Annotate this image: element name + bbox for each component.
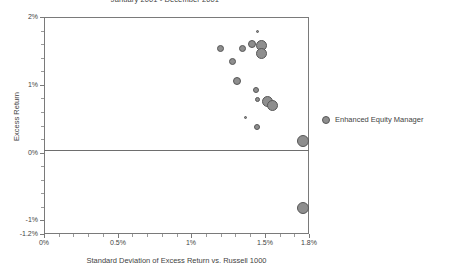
x-tick-minor xyxy=(162,234,163,237)
y-tick-minor xyxy=(41,98,44,99)
scatter-point[interactable] xyxy=(255,97,260,102)
x-tick-minor xyxy=(177,234,178,237)
scatter-point[interactable] xyxy=(217,45,224,52)
scatter-point[interactable] xyxy=(248,40,256,48)
x-tick-label: 1.5% xyxy=(245,239,285,246)
y-tick-label: 2% xyxy=(2,13,38,20)
y-tick-label: 1% xyxy=(2,81,38,88)
y-tick-minor xyxy=(41,139,44,140)
y-tick-minor xyxy=(41,112,44,113)
x-tick-mark xyxy=(118,234,119,238)
x-tick-minor xyxy=(73,234,74,237)
y-tick-minor xyxy=(41,71,44,72)
chart-legend: Enhanced Equity Manager xyxy=(322,115,423,124)
y-tick-minor xyxy=(41,31,44,32)
scatter-point[interactable] xyxy=(253,87,259,93)
x-tick-minor xyxy=(221,234,222,237)
scatter-point[interactable] xyxy=(239,45,246,52)
y-tick-minor xyxy=(41,207,44,208)
legend-marker-icon xyxy=(322,116,330,124)
chart-root: January 2001 - December 2001 Excess Retu… xyxy=(0,0,449,273)
x-tick-label: 1% xyxy=(171,239,211,246)
y-tick-label: 0% xyxy=(2,149,38,156)
x-tick-minor xyxy=(206,234,207,237)
x-tick-minor xyxy=(88,234,89,237)
x-tick-minor xyxy=(132,234,133,237)
x-tick-mark xyxy=(191,234,192,238)
y-tick-minor xyxy=(41,44,44,45)
y-tick-mark xyxy=(40,17,44,18)
y-tick-minor xyxy=(41,180,44,181)
y-tick-mark xyxy=(40,153,44,154)
x-tick-minor xyxy=(235,234,236,237)
y-tick-minor xyxy=(41,58,44,59)
y-tick-mark xyxy=(40,85,44,86)
x-tick-minor xyxy=(294,234,295,237)
plot-area xyxy=(44,17,309,234)
x-axis-label: Standard Deviation of Excess Return vs. … xyxy=(44,256,309,265)
x-tick-minor xyxy=(103,234,104,237)
y-tick-label: -1% xyxy=(2,216,38,223)
scatter-point[interactable] xyxy=(267,100,278,111)
y-tick-minor xyxy=(41,166,44,167)
zero-reference-line xyxy=(44,150,309,151)
chart-title: January 2001 - December 2001 xyxy=(0,0,330,4)
scatter-point[interactable] xyxy=(256,30,259,33)
x-tick-minor xyxy=(250,234,251,237)
y-tick-mark xyxy=(40,220,44,221)
y-tick-minor xyxy=(41,193,44,194)
x-tick-label: 0.5% xyxy=(98,239,138,246)
x-tick-mark xyxy=(44,234,45,238)
y-tick-minor xyxy=(41,126,44,127)
x-tick-minor xyxy=(59,234,60,237)
x-tick-minor xyxy=(147,234,148,237)
x-tick-mark xyxy=(309,234,310,238)
x-tick-mark xyxy=(265,234,266,238)
x-tick-minor xyxy=(280,234,281,237)
y-tick-label: -1.2% xyxy=(2,230,38,237)
legend-label: Enhanced Equity Manager xyxy=(335,115,423,124)
x-tick-label: 1.8% xyxy=(289,239,329,246)
x-tick-label: 0% xyxy=(24,239,64,246)
